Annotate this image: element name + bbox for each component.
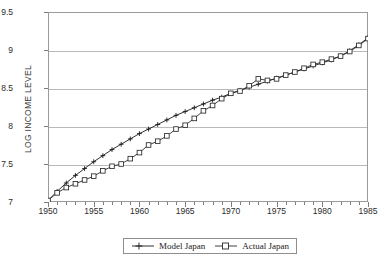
x-axis-tick-mark	[112, 202, 113, 205]
x-axis-tick-label: 1960	[122, 206, 156, 216]
legend-marker-square-icon	[214, 241, 238, 251]
x-axis-tick-mark	[85, 202, 86, 205]
legend-item-model-japan: Model Japan	[131, 241, 205, 251]
x-axis-tick-mark	[130, 202, 131, 205]
x-axis-tick-label: 1975	[260, 206, 294, 216]
x-axis-tick-mark	[267, 202, 268, 205]
x-axis-tick-mark	[176, 202, 177, 205]
x-axis-tick-mark	[75, 202, 76, 205]
x-axis-tick-label: 1980	[305, 206, 339, 216]
x-axis-tick-mark	[203, 202, 204, 205]
x-axis-tick-mark	[222, 202, 223, 205]
x-axis-tick-mark	[258, 202, 259, 205]
y-axis-tick-label: 9	[0, 45, 13, 55]
y-axis-tick-label: 7	[0, 197, 13, 207]
x-axis-tick-label: 1965	[168, 206, 202, 216]
y-axis-tick-label: 9.5	[0, 7, 13, 17]
x-axis-tick-mark	[103, 202, 104, 205]
x-axis-tick-mark	[313, 202, 314, 205]
x-axis-tick-mark	[121, 202, 122, 205]
y-axis-title: LOG INCOME LEVEL	[23, 29, 33, 189]
x-axis-tick-mark	[331, 202, 332, 205]
chart-container: LOG INCOME LEVEL 77.588.599.519501955196…	[0, 0, 385, 265]
x-axis-tick-mark	[66, 202, 67, 205]
series-layer	[48, 12, 368, 202]
x-axis-tick-mark	[158, 202, 159, 205]
series-actual-japan	[48, 36, 368, 202]
y-axis-tick-label: 7.5	[0, 159, 13, 169]
x-axis-tick-label: 1970	[214, 206, 248, 216]
legend-item-actual-japan: Actual Japan	[214, 241, 289, 251]
x-axis-tick-label: 1985	[351, 206, 385, 216]
x-axis-tick-mark	[213, 202, 214, 205]
x-axis-tick-mark	[57, 202, 58, 205]
x-axis-tick-label: 1955	[77, 206, 111, 216]
x-axis-tick-mark	[359, 202, 360, 205]
x-axis-tick-mark	[249, 202, 250, 205]
x-axis-tick-mark	[350, 202, 351, 205]
legend-label-actual-japan: Actual Japan	[242, 241, 289, 251]
x-axis-tick-mark	[240, 202, 241, 205]
x-axis-tick-mark	[286, 202, 287, 205]
legend-marker-plus-icon	[131, 241, 155, 251]
y-axis-tick-label: 8	[0, 121, 13, 131]
x-axis-tick-mark	[149, 202, 150, 205]
x-axis-tick-mark	[304, 202, 305, 205]
x-axis-tick-mark	[194, 202, 195, 205]
chart-legend: Model Japan Actual Japan	[123, 238, 297, 254]
x-axis-tick-mark	[295, 202, 296, 205]
legend-label-model-japan: Model Japan	[159, 241, 205, 251]
x-axis-tick-mark	[167, 202, 168, 205]
x-axis-tick-label: 1950	[31, 206, 65, 216]
x-axis-tick-mark	[341, 202, 342, 205]
y-axis-tick-label: 8.5	[0, 83, 13, 93]
